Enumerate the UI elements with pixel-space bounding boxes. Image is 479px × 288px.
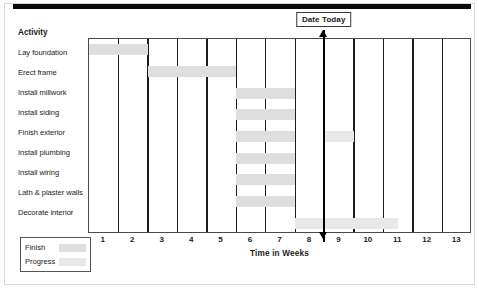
date-today-line <box>323 30 325 242</box>
gantt-bar <box>236 131 295 142</box>
gantt-bar <box>325 131 354 142</box>
gantt-bar <box>295 218 398 229</box>
x-axis-tick-label: 3 <box>159 235 163 244</box>
chart-legend: FinishProgress <box>20 237 91 272</box>
x-axis-tick-label: 12 <box>422 235 431 244</box>
gantt-bar <box>236 196 295 207</box>
date-today-arrow-up-icon <box>319 30 327 37</box>
x-axis-tick-label: 4 <box>189 235 193 244</box>
gantt-plot-inner <box>89 39 470 232</box>
activity-label: Install siding <box>18 103 92 123</box>
gantt-bar <box>148 66 236 77</box>
legend-entry: Finish <box>25 241 86 254</box>
activity-label: Erect frame <box>18 63 92 83</box>
x-axis-tick-label: 7 <box>277 235 281 244</box>
activity-label: Decorate interior <box>18 202 92 222</box>
x-axis-tick-label: 2 <box>130 235 134 244</box>
activity-label: Install millwork <box>18 83 92 103</box>
legend-entry-label: Progress <box>25 257 55 266</box>
x-axis-tick-label: 11 <box>393 235 401 244</box>
activity-label: Lay foundation <box>18 43 92 63</box>
x-axis-tick-label: 13 <box>452 235 461 244</box>
date-today-label: Date Today <box>296 12 352 27</box>
activity-column-header: Activity <box>18 28 92 38</box>
gridline <box>412 39 413 232</box>
gantt-bar <box>236 88 295 99</box>
gantt-bar <box>236 174 295 185</box>
x-axis-tick-label: 8 <box>307 235 311 244</box>
x-axis-tick-labels: 12345678910111213 <box>88 235 471 247</box>
legend-entry: Progress <box>25 255 86 268</box>
gantt-bar <box>89 44 148 55</box>
legend-entry-swatch <box>59 258 86 266</box>
gantt-bar <box>236 153 295 164</box>
x-axis-tick-label: 5 <box>218 235 222 244</box>
gantt-plot-area <box>88 38 471 233</box>
x-axis-title: Time in Weeks <box>88 249 471 258</box>
gantt-bar <box>236 109 295 120</box>
activity-label: Install wiring <box>18 162 92 182</box>
activity-column: Activity Lay foundationErect frameInstal… <box>18 28 92 222</box>
activity-label: Finish exterior <box>18 123 92 143</box>
x-axis-tick-label: 1 <box>100 235 104 244</box>
x-axis-tick-label: 10 <box>363 235 372 244</box>
gridline <box>118 39 119 232</box>
legend-entry-label: Finish <box>25 243 45 252</box>
activity-label-list: Lay foundationErect frameInstall millwor… <box>18 43 92 222</box>
x-axis-tick-label: 9 <box>336 235 340 244</box>
activity-label: Lath & plaster walls <box>18 182 92 202</box>
activity-label: Install plumbing <box>18 142 92 162</box>
gridline <box>383 39 384 232</box>
x-axis-tick-label: 6 <box>248 235 252 244</box>
legend-entry-swatch <box>59 244 86 252</box>
top-decorative-rule <box>13 3 471 9</box>
gridline <box>442 39 443 232</box>
